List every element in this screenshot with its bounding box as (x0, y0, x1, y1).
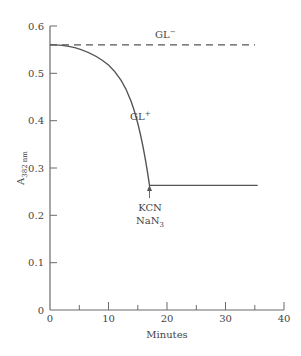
svg-text:0.4: 0.4 (28, 115, 44, 126)
svg-text:0.6: 0.6 (28, 21, 44, 32)
svg-text:0.5: 0.5 (28, 68, 44, 79)
series-gl-plus-label: GL+ (130, 110, 151, 122)
x-ticks (79, 302, 284, 310)
chart: 0.6 0.5 0.4 0.3 0.2 0.1 0 0 10 20 30 40 … (0, 0, 301, 356)
annotation-kcn: KCN (138, 202, 162, 213)
annotation-nan3: NaN3 (136, 215, 164, 229)
series-gl-plus-line (50, 45, 258, 186)
svg-text:0.3: 0.3 (28, 163, 44, 174)
y-tick-labels: 0.6 0.5 0.4 0.3 0.2 0.1 0 (28, 21, 44, 316)
y-ticks (50, 26, 57, 263)
svg-text:10: 10 (102, 313, 115, 324)
svg-text:30: 30 (219, 313, 232, 324)
svg-text:0.1: 0.1 (28, 257, 44, 268)
svg-text:0: 0 (47, 313, 53, 324)
svg-text:A382 nm: A382 nm (15, 151, 29, 186)
svg-text:0: 0 (38, 305, 44, 316)
svg-text:0.2: 0.2 (28, 210, 44, 221)
y-axis-label: A382 nm (15, 151, 29, 186)
svg-text:40: 40 (278, 313, 291, 324)
x-axis-label: Minutes (146, 329, 187, 340)
series-gl-minus-label: GL− (155, 28, 176, 40)
svg-text:20: 20 (161, 313, 174, 324)
inhibitor-arrow-annotation: KCN NaN3 (136, 185, 164, 229)
x-tick-labels: 0 10 20 30 40 (47, 313, 291, 324)
